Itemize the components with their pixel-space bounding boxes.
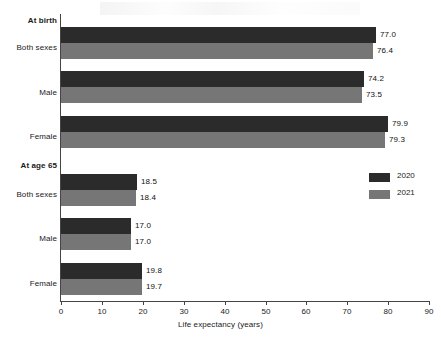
bar-value-age65-both-sexes-2021: 18.4 (140, 193, 156, 202)
x-tick-label-0: 0 (59, 307, 63, 316)
category-label-gutter: At birth Both sexes Male Female At age 6… (0, 0, 57, 341)
group-header-at-birth: At birth (28, 16, 57, 25)
bar-birth-female-2021 (61, 132, 385, 148)
x-tick-0 (61, 301, 62, 305)
bar-value-age65-female-2020: 19.8 (146, 266, 162, 275)
legend-label-2020: 2020 (397, 171, 415, 180)
life-expectancy-bar-chart: At birth Both sexes Male Female At age 6… (0, 0, 441, 341)
category-label-age65-both-sexes: Both sexes (16, 190, 57, 199)
category-label-birth-male: Male (39, 88, 57, 97)
bar-birth-both-sexes-2020 (61, 27, 376, 43)
bar-birth-female-2020 (61, 116, 388, 132)
x-tick-80 (388, 301, 389, 305)
bar-birth-male-2021 (61, 87, 362, 103)
x-tick-70 (347, 301, 348, 305)
x-tick-label-40: 40 (221, 307, 230, 316)
x-tick-90 (429, 301, 430, 305)
legend-swatch-2021 (369, 190, 390, 199)
bar-value-birth-male-2020: 74.2 (368, 74, 384, 83)
bar-value-birth-female-2021: 79.3 (389, 135, 405, 144)
bar-value-birth-male-2021: 73.5 (366, 90, 382, 99)
x-tick-30 (184, 301, 185, 305)
x-tick-10 (102, 301, 103, 305)
x-tick-label-10: 10 (98, 307, 107, 316)
bar-age65-female-2021 (61, 279, 142, 295)
bar-age65-male-2020 (61, 218, 131, 234)
bar-value-age65-male-2021: 17.0 (135, 237, 151, 246)
x-tick-50 (266, 301, 267, 305)
x-tick-label-80: 80 (384, 307, 393, 316)
legend-label-2021: 2021 (397, 188, 415, 197)
group-header-at-age-65: At age 65 (21, 161, 57, 170)
category-label-age65-male: Male (39, 234, 57, 243)
bar-age65-female-2020 (61, 263, 142, 279)
bar-value-age65-both-sexes-2020: 18.5 (141, 177, 157, 186)
x-tick-60 (306, 301, 307, 305)
x-tick-40 (225, 301, 226, 305)
x-tick-label-50: 50 (262, 307, 271, 316)
x-tick-label-30: 30 (180, 307, 189, 316)
x-axis-title: Life expectancy (years) (0, 320, 441, 329)
bar-age65-both-sexes-2020 (61, 174, 137, 190)
x-tick-label-90: 90 (425, 307, 434, 316)
bar-value-birth-both-sexes-2020: 77.0 (380, 30, 396, 39)
category-label-birth-female: Female (30, 132, 57, 141)
x-axis-line (60, 301, 430, 302)
bar-value-age65-female-2021: 19.7 (146, 282, 162, 291)
bar-age65-male-2021 (61, 234, 131, 250)
bar-birth-male-2020 (61, 71, 364, 87)
bar-value-birth-female-2020: 79.9 (392, 119, 408, 128)
x-tick-20 (143, 301, 144, 305)
x-tick-label-20: 20 (139, 307, 148, 316)
legend-swatch-2020 (369, 173, 390, 182)
category-label-birth-both-sexes: Both sexes (16, 43, 57, 52)
x-tick-label-70: 70 (343, 307, 352, 316)
bar-value-birth-both-sexes-2021: 76.4 (377, 46, 393, 55)
category-label-age65-female: Female (30, 279, 57, 288)
bar-age65-both-sexes-2021 (61, 190, 136, 206)
x-tick-label-60: 60 (302, 307, 311, 316)
bar-birth-both-sexes-2021 (61, 43, 373, 59)
bar-value-age65-male-2020: 17.0 (135, 221, 151, 230)
scan-artifact (100, 2, 360, 15)
